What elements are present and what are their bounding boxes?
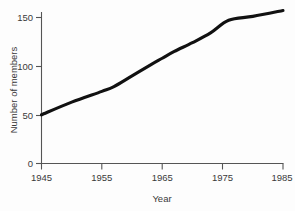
y-tick-label-50: 50	[22, 110, 33, 121]
y-axis-title: Number of members	[8, 46, 19, 133]
x-axis-title: Year	[152, 193, 171, 204]
x-tick-label-1975: 1975	[212, 172, 233, 183]
y-tick-label-100: 100	[17, 61, 33, 72]
x-tick-label-1985: 1985	[271, 172, 292, 183]
data-series-line	[42, 11, 284, 115]
x-tick-label-1965: 1965	[152, 172, 173, 183]
y-tick-label-150: 150	[17, 12, 33, 23]
line-chart: 150 100 50 0 1945 1955 1965 1975 1985 Ye…	[0, 0, 295, 211]
x-tick-label-1955: 1955	[91, 172, 112, 183]
y-tick-label-0: 0	[28, 158, 33, 169]
chart-page: 150 100 50 0 1945 1955 1965 1975 1985 Ye…	[0, 0, 295, 211]
x-tick-label-1945: 1945	[31, 172, 52, 183]
